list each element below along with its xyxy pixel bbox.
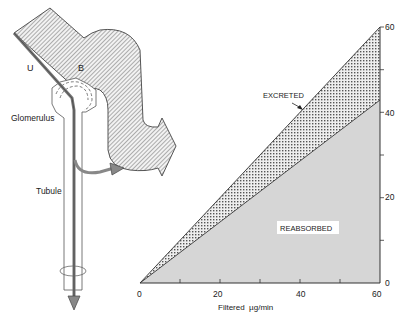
x-tick-label-0: 0 xyxy=(137,289,142,299)
label-tubule: Tubule xyxy=(36,186,62,196)
excreted-pointer-head xyxy=(297,105,303,110)
label-glomerulus: Glomerulus xyxy=(11,113,54,123)
figure: U B Glomerulus Tubule xyxy=(0,0,403,319)
x-tick-label-20: 20 xyxy=(213,289,223,299)
y-tick-label-0: 0 xyxy=(385,278,390,288)
chart: 0 20 40 60 60 40 20 0 Filtered µg/min EX… xyxy=(137,22,395,312)
x-tick-label-40: 40 xyxy=(296,289,306,299)
y-tick-label-20: 20 xyxy=(385,192,395,202)
x-tick-label-60: 60 xyxy=(372,289,382,299)
nephron-diagram: U B Glomerulus Tubule xyxy=(11,8,176,310)
label-b: B xyxy=(78,63,84,73)
excreted-label: EXCRETED xyxy=(263,91,304,100)
y-ticks xyxy=(380,27,384,240)
label-u: U xyxy=(27,63,34,73)
arrow-down-icon xyxy=(68,296,80,310)
y-tick-label-40: 40 xyxy=(385,108,395,118)
y-tick-label-60: 60 xyxy=(385,22,395,32)
x-axis-title: Filtered µg/min xyxy=(218,303,273,312)
reabsorbed-label: REABSORBED xyxy=(280,224,333,233)
